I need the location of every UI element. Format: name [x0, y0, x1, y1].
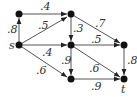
node-b: [68, 11, 75, 18]
node-label-s: s: [9, 39, 15, 52]
node-label-t: t: [121, 83, 126, 96]
weight-c-e: .9: [61, 54, 72, 67]
weight-c-t: .6: [89, 62, 100, 75]
weight-d-t: .8: [127, 54, 137, 67]
weight-s-a: .8: [7, 23, 18, 36]
node-t: [121, 76, 128, 83]
weight-a-b: .4: [40, 0, 51, 13]
node-e: [68, 76, 75, 83]
node-s: [16, 42, 23, 49]
node-c: [68, 42, 75, 49]
weight-b-d: .7: [95, 17, 106, 30]
node-a: [16, 11, 23, 18]
weight-s-c: .4: [42, 46, 53, 59]
graph-canvas: s t .8 .4 .5 .3 .7 .4 .5 .9 .6 .8 .6 .9: [0, 0, 137, 97]
weight-s-e: .6: [36, 64, 47, 77]
weight-b-c: .3: [73, 22, 84, 35]
node-d: [121, 42, 128, 49]
weight-e-t: .9: [91, 80, 102, 93]
weight-s-b: .5: [38, 19, 49, 32]
weight-c-d: .5: [91, 33, 102, 46]
